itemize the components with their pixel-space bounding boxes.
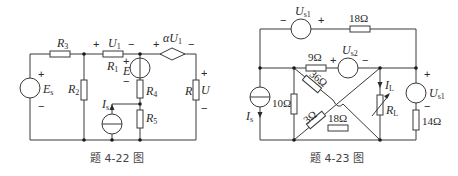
us2-minus-sign: − <box>362 54 368 66</box>
us2-plus-sign: + <box>330 54 336 66</box>
node <box>138 102 142 106</box>
u1-plus-sign: + <box>93 38 99 50</box>
label-rl: RL <box>385 103 398 118</box>
us1-top-plus-sign: + <box>318 14 324 26</box>
figure-caption-4-23: 题 4-23 图 <box>310 152 364 165</box>
dependent-voltage-source-icon <box>160 48 185 60</box>
arrow-up-icon <box>110 104 115 110</box>
label-us1-right: Us1 <box>429 86 445 101</box>
label-alpha-u1: αU1 <box>163 31 182 46</box>
label-us2: Us2 <box>342 43 358 58</box>
resistor-18-top <box>350 26 370 32</box>
voltage-source-es-icon <box>20 78 40 98</box>
voltage-source-us2-icon <box>338 58 358 78</box>
figure-caption-4-22: 题 4-22 图 <box>90 152 144 165</box>
node <box>110 138 114 142</box>
node <box>258 66 262 70</box>
node <box>414 66 418 70</box>
node <box>82 138 86 142</box>
us1-right-plus-sign: + <box>424 68 430 80</box>
resistor-10 <box>291 94 297 114</box>
label-u: U <box>201 83 211 97</box>
label-es: Es <box>42 82 53 97</box>
resistor-r1 <box>103 51 123 57</box>
resistor-rl <box>377 95 383 115</box>
resistor-r <box>193 80 199 100</box>
voltage-source-us1-right-icon <box>406 83 426 103</box>
us1-top-minus-sign: − <box>280 14 286 26</box>
label-10: 10Ω <box>272 97 291 109</box>
label-r: R <box>184 84 193 98</box>
u-minus-sign: − <box>201 102 207 114</box>
resistor-r4 <box>137 80 143 98</box>
label-r2: R2 <box>67 82 79 97</box>
node <box>82 52 86 56</box>
voltage-source-us1-top-icon <box>291 19 311 39</box>
arrow-down-icon <box>258 112 263 118</box>
label-us1-top: Us1 <box>295 4 311 19</box>
circuit-diagrams: R3 + U1 − R1 + αU1 − + Es − R2 + E − R4 … <box>0 0 458 176</box>
label-18-bottom: 18Ω <box>328 112 347 124</box>
u-plus-sign: + <box>201 67 207 79</box>
label-r3: R3 <box>56 36 68 51</box>
label-14: 14Ω <box>422 115 441 127</box>
label-u1: U1 <box>108 36 121 51</box>
label-is: Is <box>245 109 253 124</box>
label-is: Is <box>101 97 109 112</box>
node <box>138 52 142 56</box>
e-minus-sign: − <box>123 75 129 87</box>
node <box>292 66 296 70</box>
es-plus-sign: + <box>38 68 44 80</box>
label-r1: R1 <box>106 59 118 74</box>
label-il: IL <box>384 78 394 93</box>
resistor-18-bottom <box>328 125 348 131</box>
label-18-top: 18Ω <box>349 12 368 24</box>
resistor-r3 <box>50 51 70 57</box>
resistor-r5 <box>137 110 143 128</box>
label-r4: R4 <box>145 84 157 99</box>
node <box>138 138 142 142</box>
au1-minus-sign: − <box>188 38 194 50</box>
label-9: 9Ω <box>308 51 322 63</box>
resistor-r2 <box>81 80 87 100</box>
label-r5: R5 <box>145 111 157 126</box>
node <box>292 138 296 142</box>
es-minus-sign: − <box>38 100 44 112</box>
au1-plus-sign: + <box>153 38 159 50</box>
node <box>378 66 382 70</box>
figure-4-23: − Us1 + 18Ω 9Ω + Us2 − 36Ω 10Ω 3Ω 18Ω Is… <box>245 4 445 165</box>
node <box>378 138 382 142</box>
resistor-14 <box>413 110 419 130</box>
figure-4-22: R3 + U1 − R1 + αU1 − + Es − R2 + E − R4 … <box>20 31 211 165</box>
us1-right-minus-sign: − <box>424 100 430 112</box>
current-arrow-down-icon <box>378 82 383 88</box>
u1-minus-sign: − <box>128 38 134 50</box>
